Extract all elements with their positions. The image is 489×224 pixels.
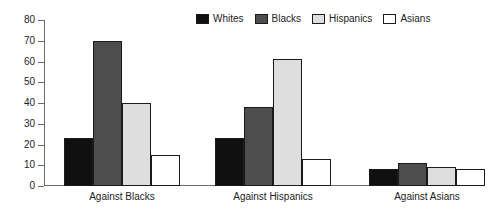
plot-area: 80706050403020100 xyxy=(44,20,442,186)
bar xyxy=(151,155,180,186)
bar xyxy=(398,163,427,186)
bar xyxy=(215,138,244,186)
bar xyxy=(244,107,273,186)
bar xyxy=(64,138,93,186)
bar xyxy=(273,59,302,186)
y-tick: 20 xyxy=(38,145,44,146)
y-tick-label: 80 xyxy=(24,14,35,25)
x-axis-label: Against Asians xyxy=(349,191,489,203)
y-tick: 60 xyxy=(38,62,44,63)
bar-group xyxy=(64,20,180,186)
y-tick: 10 xyxy=(38,165,44,166)
bar xyxy=(93,41,122,186)
y-tick: 30 xyxy=(38,124,44,125)
y-tick: 40 xyxy=(38,103,44,104)
y-tick-label: 70 xyxy=(24,35,35,46)
y-tick: 50 xyxy=(38,82,44,83)
bar-group xyxy=(215,20,331,186)
bar xyxy=(302,159,331,186)
bar-group xyxy=(369,20,485,186)
y-tick-label: 30 xyxy=(24,118,35,129)
y-tick: 0 xyxy=(38,186,44,187)
x-axis-label: Against Hispanics xyxy=(195,191,351,203)
y-tick-label: 0 xyxy=(29,180,35,191)
x-axis-label: Against Blacks xyxy=(44,191,200,203)
bar xyxy=(369,169,398,186)
y-axis-line xyxy=(44,20,45,186)
y-tick-label: 60 xyxy=(24,56,35,67)
y-tick-label: 20 xyxy=(24,139,35,150)
y-tick: 80 xyxy=(38,20,44,21)
y-tick: 70 xyxy=(38,41,44,42)
y-tick-label: 50 xyxy=(24,76,35,87)
bar xyxy=(122,103,151,186)
y-tick-label: 10 xyxy=(24,159,35,170)
bar xyxy=(427,167,456,186)
bar xyxy=(456,169,485,186)
y-tick-label: 40 xyxy=(24,97,35,108)
